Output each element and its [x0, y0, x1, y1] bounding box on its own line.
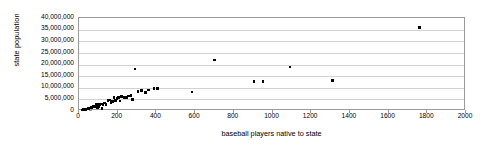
scatter-chart: state population 05,000,00010,000,00015,… [0, 0, 492, 146]
gridline [79, 65, 464, 66]
data-point [134, 68, 137, 71]
x-tick-label: 400 [135, 113, 175, 120]
x-tick-mark [388, 110, 389, 113]
data-point [418, 26, 421, 29]
data-point [289, 66, 292, 69]
y-tick-label: 20,000,000 [18, 60, 74, 67]
gridline [79, 41, 464, 42]
x-tick-label: 2000 [445, 113, 485, 120]
x-tick-label: 1000 [252, 113, 292, 120]
x-tick-label: 600 [174, 113, 214, 120]
x-tick-label: 1200 [290, 113, 330, 120]
gridline [79, 88, 464, 89]
data-point [191, 91, 194, 94]
x-tick-mark [117, 110, 118, 113]
x-tick-mark [272, 110, 273, 113]
data-point [213, 59, 216, 62]
gridline [79, 76, 464, 77]
x-tick-mark [233, 110, 234, 113]
x-tick-mark [426, 110, 427, 113]
x-tick-label: 200 [97, 113, 137, 120]
data-point [147, 89, 150, 92]
x-tick-mark [349, 110, 350, 113]
y-tick-label: 5,000,000 [18, 95, 74, 102]
data-point [131, 98, 134, 101]
y-tick-label: 40,000,000 [18, 14, 74, 21]
y-axis-labels: 05,000,00010,000,00015,000,00020,000,000… [14, 0, 74, 146]
data-point [137, 90, 140, 93]
data-point [130, 94, 133, 97]
x-tick-mark [465, 110, 466, 113]
y-tick-label: 15,000,000 [18, 72, 74, 79]
data-point [262, 80, 265, 83]
data-point [144, 91, 147, 94]
x-tick-label: 800 [213, 113, 253, 120]
x-tick-mark [194, 110, 195, 113]
x-tick-label: 1800 [406, 113, 446, 120]
data-point [105, 103, 108, 106]
data-point [253, 80, 256, 83]
data-point [331, 79, 334, 82]
data-point [140, 89, 143, 92]
gridline [79, 99, 464, 100]
data-point [97, 105, 100, 108]
y-tick-label: 25,000,000 [18, 49, 74, 56]
y-tick-label: 10,000,000 [18, 83, 74, 90]
x-tick-label: 1400 [329, 113, 369, 120]
data-point [101, 107, 104, 110]
data-point [156, 87, 159, 90]
data-point [119, 100, 122, 103]
x-tick-mark [155, 110, 156, 113]
y-tick-label: 30,000,000 [18, 37, 74, 44]
x-axis-title: baseball players native to state [78, 129, 465, 138]
y-tick-label: 35,000,000 [18, 25, 74, 32]
plot-area [78, 17, 465, 110]
gridline [79, 53, 464, 54]
x-tick-mark [310, 110, 311, 113]
x-tick-mark [78, 110, 79, 113]
y-tick-mark [89, 110, 92, 111]
gridline [79, 30, 464, 31]
x-tick-label: 1600 [368, 113, 408, 120]
data-point [153, 87, 156, 90]
x-tick-label: 0 [58, 113, 98, 120]
